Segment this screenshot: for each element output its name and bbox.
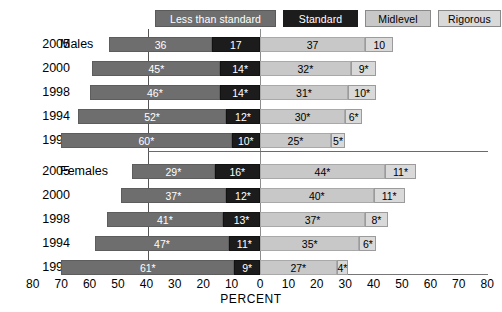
stacked-bar: 52*12*30*6*: [78, 109, 362, 124]
x-axis-tick-label: 50: [103, 276, 133, 292]
bar-segment-rigorous: 6*: [359, 236, 376, 251]
stacked-bar: 61*9*27*4*: [61, 260, 348, 275]
x-axis-tick-label: 70: [46, 276, 76, 292]
bar-segment-rigorous: 4*: [337, 260, 348, 275]
row-year-label: 1998: [18, 81, 70, 103]
bar-segment-less-than-standard: 46*: [90, 85, 221, 100]
bar-segment-less-than-standard: 52*: [78, 109, 226, 124]
x-axis-tick-label: 10: [273, 276, 303, 292]
stacked-bar: 46*14*31*10*: [90, 85, 377, 100]
stacked-bar: 36173710: [109, 37, 393, 52]
chart-row: 199452*12*30*6*: [0, 105, 502, 127]
bar-segment-less-than-standard: 61*: [61, 260, 234, 275]
stacked-bar: 60*10*25*5*: [61, 133, 345, 148]
row-year-label: 1994: [18, 232, 70, 254]
bar-segment-rigorous: 11*: [385, 164, 416, 179]
bar-segment-standard: 13*: [223, 212, 260, 227]
chart-row: 199841*13*37*8*: [0, 208, 502, 230]
stacked-bar: 45*14*32*9*: [92, 61, 376, 76]
x-axis-tick-label: 50: [387, 276, 417, 292]
x-axis-tick-label: 80: [18, 276, 48, 292]
chart-row: 199060*10*25*5*: [0, 129, 502, 151]
bar-segment-midlevel: 40*: [260, 188, 374, 203]
chart-row: 2005Males36173710: [0, 33, 502, 55]
x-axis-tick-label: 40: [359, 276, 389, 292]
bar-segment-less-than-standard: 60*: [61, 133, 231, 148]
bar-segment-standard: 10*: [232, 133, 260, 148]
bar-segment-standard: 14*: [220, 61, 260, 76]
bar-segment-rigorous: 9*: [351, 61, 377, 76]
row-year-label: 1994: [18, 105, 70, 127]
bar-segment-less-than-standard: 41*: [107, 212, 223, 227]
bar-segment-rigorous: 11*: [374, 188, 405, 203]
panel-divider: [148, 151, 488, 152]
row-year-label: 2000: [18, 57, 70, 79]
bar-segment-rigorous: 6*: [345, 109, 362, 124]
legend-item-rigorous: Rigorous: [438, 10, 501, 27]
legend-item-midlevel: Midlevel: [365, 10, 431, 27]
stacked-bar: 29*16*44*11*: [132, 164, 416, 179]
x-axis-ticks: 807060504030201001020304050607080: [0, 276, 502, 292]
bar-segment-standard: 12*: [226, 109, 260, 124]
bar-segment-midlevel: 25*: [260, 133, 331, 148]
chart-container: Less than standard Standard Midlevel Rig…: [0, 0, 502, 312]
x-axis-tick-label: 70: [444, 276, 474, 292]
legend-item-standard: Standard: [283, 10, 358, 27]
bar-segment-less-than-standard: 47*: [95, 236, 228, 251]
stacked-bar: 41*13*37*8*: [107, 212, 388, 227]
chart-row: 199846*14*31*10*: [0, 81, 502, 103]
chart-row: 200045*14*32*9*: [0, 57, 502, 79]
x-axis-tick-label: 30: [330, 276, 360, 292]
bar-segment-standard: 16*: [215, 164, 260, 179]
x-axis-tick-label: 30: [160, 276, 190, 292]
bar-segment-standard: 11*: [229, 236, 260, 251]
x-axis-tick-label: 0: [245, 276, 275, 292]
bar-segment-standard: 14*: [220, 85, 260, 100]
x-axis-tick-label: 60: [75, 276, 105, 292]
chart-row: 200037*12*40*11*: [0, 184, 502, 206]
legend-item-less-than-standard: Less than standard: [155, 10, 276, 27]
bar-segment-rigorous: 8*: [365, 212, 388, 227]
bar-segment-standard: 17: [212, 37, 260, 52]
legend-label-less-than-standard: Less than standard: [170, 13, 261, 25]
row-year-label: 1998: [18, 208, 70, 230]
bar-segment-standard: 9*: [234, 260, 260, 275]
chart-row: 199447*11*35*6*: [0, 232, 502, 254]
bar-segment-rigorous: 10*: [348, 85, 376, 100]
bar-segment-midlevel: 27*: [260, 260, 337, 275]
bar-segment-less-than-standard: 45*: [92, 61, 220, 76]
x-axis-tick-label: 40: [131, 276, 161, 292]
chart-legend: Less than standard Standard Midlevel Rig…: [155, 10, 501, 27]
bar-segment-midlevel: 31*: [260, 85, 348, 100]
bar-segment-rigorous: 5*: [331, 133, 345, 148]
bar-segment-midlevel: 37: [260, 37, 365, 52]
panel-group-label: Females: [60, 160, 140, 182]
bar-segment-rigorous: 10: [365, 37, 393, 52]
x-axis-title: PERCENT: [0, 292, 502, 306]
x-axis-tick-label: 60: [415, 276, 445, 292]
bar-segment-midlevel: 44*: [260, 164, 385, 179]
row-year-label: 2000: [18, 184, 70, 206]
legend-label-rigorous: Rigorous: [448, 13, 491, 25]
x-axis-tick-label: 10: [217, 276, 247, 292]
x-axis-tick-label: 20: [302, 276, 332, 292]
bar-segment-midlevel: 35*: [260, 236, 359, 251]
chart-row: 199061*9*27*4*: [0, 256, 502, 278]
chart-row: 2005Females29*16*44*11*: [0, 160, 502, 182]
x-axis-tick-label: 80: [472, 276, 502, 292]
legend-label-standard: Standard: [299, 13, 342, 25]
bar-segment-less-than-standard: 36: [109, 37, 211, 52]
stacked-bar: 37*12*40*11*: [121, 188, 405, 203]
bar-segment-midlevel: 37*: [260, 212, 365, 227]
bar-segment-less-than-standard: 29*: [132, 164, 214, 179]
bar-segment-less-than-standard: 37*: [121, 188, 226, 203]
x-axis-tick-label: 20: [188, 276, 218, 292]
bar-segment-standard: 12*: [226, 188, 260, 203]
stacked-bar: 47*11*35*6*: [95, 236, 376, 251]
bar-segment-midlevel: 32*: [260, 61, 351, 76]
bar-segment-midlevel: 30*: [260, 109, 345, 124]
legend-label-midlevel: Midlevel: [378, 13, 417, 25]
